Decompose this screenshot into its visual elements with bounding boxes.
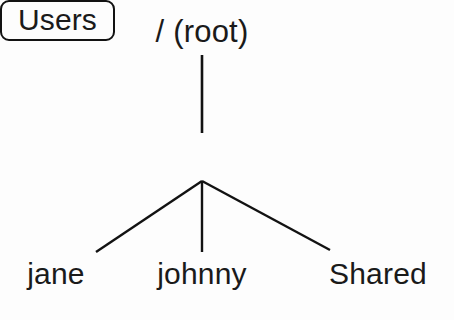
edge-users-to-jane: [96, 181, 202, 252]
node-johnny: johnny: [136, 259, 268, 289]
node-shared: Shared: [310, 259, 446, 289]
filesystem-tree-diagram: / (root) Users jane johnny Shared: [0, 0, 454, 320]
edge-users-to-shared: [202, 181, 330, 250]
node-jane: jane: [0, 259, 112, 289]
node-users-label: Users: [18, 5, 97, 35]
